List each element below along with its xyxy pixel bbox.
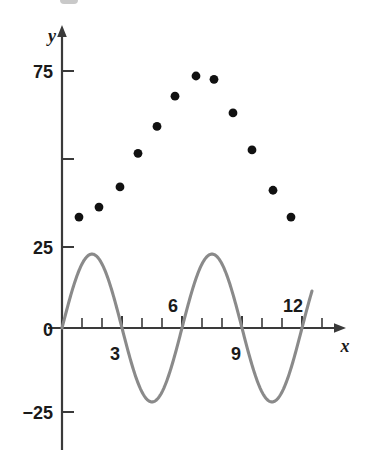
data-point [95, 203, 104, 212]
y-axis-label: y [46, 26, 57, 46]
x-axis-label: x [340, 336, 350, 356]
x-tick-label-6: 6 [168, 296, 178, 316]
x-tick-label-3: 3 [110, 344, 120, 364]
x-tick-label-9: 9 [231, 344, 241, 364]
data-point [229, 109, 238, 118]
figure-container: 3 6 9 12 75 25 0 −25 y x [0, 0, 368, 463]
scatter-plot-svg: 3 6 9 12 75 25 0 −25 y x [0, 0, 368, 463]
data-point [248, 146, 257, 155]
data-point [153, 122, 162, 131]
x-tick-label-12: 12 [283, 296, 303, 316]
y-axis-arrowhead [57, 25, 67, 37]
y-tick-marks [62, 71, 74, 412]
y-tick-label-75: 75 [33, 62, 53, 82]
data-point [75, 213, 84, 222]
data-point [116, 182, 125, 191]
y-tick-label-neg25: −25 [22, 403, 53, 423]
y-tick-label-0: 0 [43, 320, 53, 340]
data-point [210, 75, 219, 84]
y-tick-label-25: 25 [33, 238, 53, 258]
data-point [134, 149, 143, 158]
data-point [192, 72, 201, 81]
x-tick-labels: 3 6 9 12 [110, 296, 303, 364]
x-axis-arrowhead [334, 323, 346, 333]
y-tick-labels: 75 25 0 −25 [22, 62, 53, 423]
data-point [287, 213, 296, 222]
data-point [171, 92, 180, 101]
data-point [269, 186, 278, 195]
scan-artifact-mark [60, 0, 78, 4]
axes-group [48, 25, 346, 450]
scatter-point-group [75, 72, 296, 222]
